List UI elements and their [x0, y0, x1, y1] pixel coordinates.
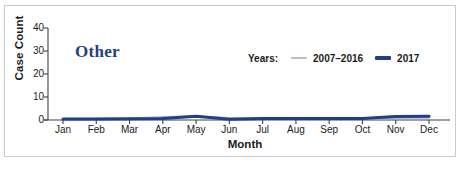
y-axis-tick-labels: 403020100: [22, 28, 44, 120]
data-series-current: [63, 116, 429, 119]
x-axis-title: Month: [48, 138, 442, 150]
y-tick-label: 10: [24, 92, 44, 102]
y-tick-label: 0: [24, 115, 44, 125]
y-tick-label: 20: [24, 69, 44, 79]
y-tick-label: 40: [24, 23, 44, 33]
plot-svg: [48, 28, 444, 120]
y-tick-label: 30: [24, 46, 44, 56]
x-tick-label: Dec: [409, 124, 449, 136]
chart-figure: Case Count 403020100 Other Years: 2007–2…: [0, 0, 466, 170]
x-axis-tick-labels: JanFebMarAprMayJunJulAugSepOctNovDec: [48, 124, 444, 138]
plot-area: [48, 28, 444, 120]
